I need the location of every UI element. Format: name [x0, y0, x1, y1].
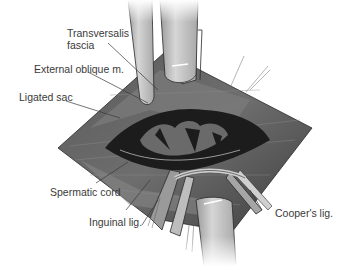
label-external-oblique: External oblique m. — [34, 63, 124, 75]
label-ligated-sac: Ligated sac — [19, 91, 73, 103]
label-transversalis-fascia-line2: fascia — [67, 39, 95, 51]
label-spermatic-cord: Spermatic cord — [50, 186, 121, 198]
hernia-repair-illustration: Transversalis fascia External oblique m.… — [0, 0, 345, 266]
label-inguinal-lig: Inguinal lig. — [89, 216, 142, 228]
label-coopers-lig: Cooper's lig. — [275, 207, 333, 219]
label-transversalis-fascia-line1: Transversalis — [67, 27, 129, 39]
sutures-top — [230, 56, 270, 92]
